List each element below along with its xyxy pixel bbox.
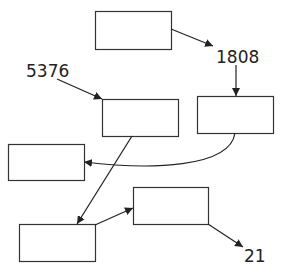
node-box-middle: [103, 100, 179, 137]
edge-middle-to-bottom-left: [77, 136, 132, 224]
label-1808: 1808: [216, 47, 259, 67]
edge-right-to-left-curved: [84, 133, 235, 166]
diagram-svg: 1808 5376 21: [0, 0, 282, 272]
edge-top-to-1808: [171, 29, 213, 46]
edge-bottom-middle-to-21: [208, 224, 243, 247]
node-box-bottom-left: [20, 225, 96, 262]
label-21: 21: [244, 246, 266, 266]
node-box-top: [96, 12, 172, 50]
node-box-left: [9, 145, 85, 181]
node-box-bottom-middle: [134, 188, 209, 225]
edge-5376-to-middle: [57, 79, 102, 99]
node-box-right: [198, 97, 274, 134]
edge-bottom-left-to-bottom-middle: [95, 208, 133, 225]
diagram-canvas: 1808 5376 21: [0, 0, 282, 272]
label-5376: 5376: [26, 61, 69, 81]
